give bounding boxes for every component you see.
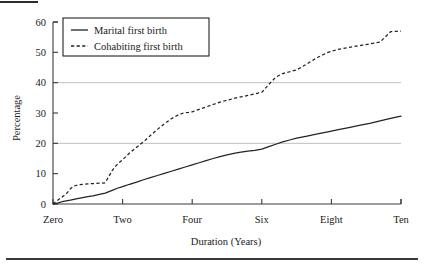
data-series-group	[53, 31, 401, 204]
legend-label-cohabiting: Cohabiting first birth	[94, 41, 183, 52]
y-tick-label: 60	[36, 17, 47, 28]
y-tick-label: 10	[36, 168, 47, 179]
y-tick-labels-group: 0102030405060	[36, 17, 47, 210]
gridlines-group	[53, 83, 401, 144]
x-ticks-group	[53, 199, 401, 204]
y-axis-title: Percentage	[11, 95, 22, 141]
x-tick-label: Six	[255, 214, 270, 225]
y-tick-label: 50	[36, 47, 47, 58]
x-tick-label: Four	[182, 214, 202, 225]
x-tick-label: Two	[113, 214, 132, 225]
y-tick-label: 20	[36, 138, 47, 149]
y-tick-label: 30	[36, 108, 47, 119]
legend-label-marital: Marital first birth	[94, 25, 168, 36]
x-tick-label: Ten	[393, 214, 409, 225]
series-cohabiting-first-birth	[53, 31, 401, 204]
y-tick-label: 40	[36, 77, 47, 88]
y-ticks-group	[53, 22, 58, 204]
x-tick-label: Zero	[43, 214, 63, 225]
line-chart: 0102030405060 ZeroTwoFourSixEightTen Per…	[0, 0, 424, 269]
top-rule-divider	[0, 1, 38, 3]
x-axis-title: Duration (Years)	[191, 236, 262, 248]
bottom-rule-divider	[6, 258, 418, 260]
chart-legend: Marital first birth Cohabiting first bir…	[63, 18, 209, 56]
x-tick-labels-group: ZeroTwoFourSixEightTen	[43, 214, 409, 225]
chart-figure: 0102030405060 ZeroTwoFourSixEightTen Per…	[0, 0, 424, 269]
y-tick-label: 0	[41, 199, 46, 210]
series-marital-first-birth	[53, 116, 401, 204]
x-tick-label: Eight	[320, 214, 343, 225]
